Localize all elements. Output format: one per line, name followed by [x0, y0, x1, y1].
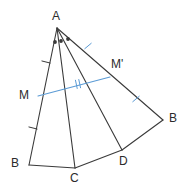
tick-midline-stroke: [75, 80, 77, 88]
vertex-label-c: C: [70, 172, 79, 184]
tick-AM: [42, 61, 50, 63]
angle-marker-dot-3: [66, 37, 70, 41]
angle-marker-dot-1: [53, 40, 57, 44]
tick-AMprime: [85, 43, 91, 48]
vertex-label-m-prime: M': [111, 58, 123, 70]
side-C-D: [75, 150, 122, 168]
ray-A-C: [57, 28, 75, 168]
side-B-C: [29, 165, 75, 168]
side-D-B2: [122, 120, 163, 150]
ray-A-B2: [57, 28, 163, 120]
segment-M-Mprime: [38, 77, 110, 96]
tick-MB: [29, 127, 37, 129]
ray-A-D: [57, 28, 122, 150]
tick-midline: [75, 80, 80, 89]
geometry-figure: A B C D B M M': [0, 0, 188, 192]
angle-marker-dot-2: [59, 39, 63, 43]
vertex-label-m: M: [19, 89, 29, 101]
tick-AM-stroke: [42, 61, 50, 63]
tick-midline-stroke: [79, 80, 81, 88]
midline-group: [38, 77, 110, 96]
tick-AMprime-stroke: [85, 43, 91, 48]
vertex-label-d: D: [119, 155, 128, 167]
segments-group: [29, 28, 163, 168]
vertex-label-a: A: [52, 10, 60, 22]
tick-MB-stroke: [29, 127, 37, 129]
ray-A-B: [29, 28, 57, 165]
vertex-label-b-prime: B: [169, 112, 177, 124]
vertex-label-b: B: [11, 157, 19, 169]
angle-marker-dots-group: [53, 37, 70, 44]
